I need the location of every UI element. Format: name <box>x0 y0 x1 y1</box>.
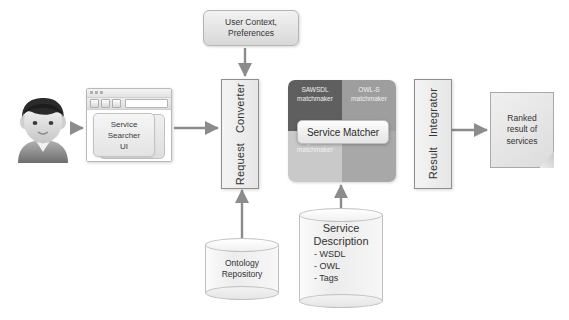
request-converter-box: Request Converter <box>221 79 259 189</box>
request-converter-line1: Request <box>234 143 246 185</box>
service-matcher-group: SAWSDL matchmaker OWL-S matchmaker Tag-b… <box>288 80 396 182</box>
service-description-line1: Service <box>323 222 360 235</box>
user-context-preferences-box: User Context, Preferences <box>203 10 299 46</box>
ranked-line3: services <box>506 136 537 146</box>
service-matcher-label: Service Matcher <box>297 120 389 144</box>
back-button[interactable] <box>90 99 99 108</box>
owls-line1: OWL-S <box>358 86 379 93</box>
address-bar-input[interactable] <box>125 99 168 108</box>
tag-line2: matchmaker <box>297 146 333 153</box>
ranked-result-document: Ranked result of services <box>490 92 554 168</box>
ssui-line1: Service <box>111 120 138 129</box>
ranked-line1: Ranked <box>507 113 536 123</box>
ontology-repository-cylinder: Ontology Repository <box>205 238 279 300</box>
ontology-line1: Ontology <box>225 258 259 270</box>
window-controls <box>90 91 103 94</box>
browser-titlebar <box>87 89 171 98</box>
service-description-item-wsdl: - WSDL <box>314 248 346 260</box>
browser-window[interactable]: Service Searcher UI <box>86 88 172 162</box>
service-description-label: Service Description - WSDL - OWL - Tags <box>299 208 383 308</box>
result-integrator-line1: Result <box>427 147 439 179</box>
service-description-item-tags: - Tags <box>314 272 338 284</box>
sawsdl-line2: matchmaker <box>297 95 333 102</box>
request-converter-line2: Converter <box>234 83 246 133</box>
owls-line2: matchmaker <box>351 95 387 102</box>
result-integrator-line2: Integrator <box>427 88 439 137</box>
forward-button[interactable] <box>101 99 110 108</box>
browser-viewport: Service Searcher UI <box>87 110 171 161</box>
user-actor-icon <box>12 96 74 164</box>
ranked-result-label: Ranked result of services <box>490 92 554 168</box>
reload-button[interactable] <box>112 99 121 108</box>
user-context-line2: Preferences <box>228 28 274 38</box>
ssui-line3: UI <box>120 142 128 151</box>
ontology-line2: Repository <box>222 269 263 281</box>
sawsdl-line1: SAWSDL <box>301 86 328 93</box>
ranked-line2: result of <box>507 124 537 134</box>
diagram-canvas: Service Searcher UI User Context, Prefer… <box>0 0 569 320</box>
service-description-item-owl: - OWL <box>314 260 340 272</box>
browser-toolbar[interactable] <box>87 98 171 110</box>
user-context-line1: User Context, <box>225 17 277 27</box>
result-integrator-label: Result Integrator <box>427 88 440 179</box>
service-description-cylinder: Service Description - WSDL - OWL - Tags <box>299 208 383 308</box>
request-converter-label: Request Converter <box>234 83 247 185</box>
ontology-repository-label: Ontology Repository <box>205 238 279 300</box>
service-description-line2: Description <box>313 235 368 248</box>
service-searcher-ui-box[interactable]: Service Searcher UI <box>93 113 155 157</box>
ssui-line2: Searcher <box>108 131 140 140</box>
result-integrator-box: Result Integrator <box>414 79 452 189</box>
